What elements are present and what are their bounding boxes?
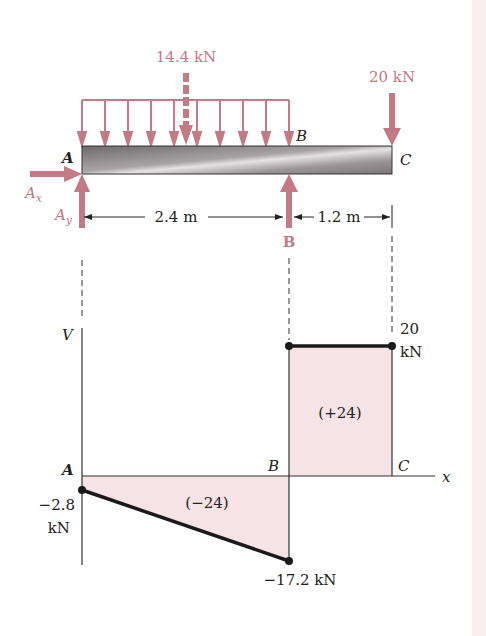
dimension-bc-label: 1.2 m	[318, 208, 361, 226]
x-axis-label: x	[442, 468, 451, 486]
resultant-load-label: 14.4 kN	[156, 48, 216, 66]
resultant-arrow-icon	[179, 73, 193, 145]
figure: 14.4 kN A	[0, 0, 486, 636]
beam-point-c: C	[400, 151, 412, 169]
dimension-ab-label: 2.4 m	[155, 208, 198, 226]
reaction-b-label: B	[283, 233, 296, 251]
shear-point-c: C	[398, 457, 410, 475]
beam	[82, 146, 392, 174]
reaction-ax-label: Ax	[23, 184, 43, 205]
reaction-ax-arrow-icon	[30, 166, 82, 182]
point-load-label: 20 kN	[369, 68, 415, 86]
shear-diagram: V x A B C −2.8 kN −17.2 kN 20 kN	[39, 320, 451, 589]
reaction-ay-label: Ay	[53, 206, 73, 227]
value-b-label: −17.2 kN	[264, 571, 337, 589]
shear-point-b: B	[267, 457, 279, 475]
value-a-unit: kN	[48, 519, 70, 537]
value-c-unit: kN	[400, 343, 422, 361]
shear-area-negative	[82, 476, 289, 561]
reaction-ay-arrow-icon	[74, 174, 90, 228]
diagram-canvas: 14.4 kN A	[0, 0, 486, 636]
area-negative-label: (−24)	[185, 494, 228, 512]
dimension-ab: 2.4 m	[84, 208, 283, 226]
area-positive-label: (+24)	[318, 404, 361, 422]
value-a-label: −2.8	[39, 496, 75, 514]
beam-point-a: A	[60, 149, 74, 167]
projection-lines	[82, 236, 392, 340]
reaction-b-arrow-icon	[280, 174, 298, 228]
page-edge-strip	[472, 0, 486, 636]
beam-point-b: B	[295, 127, 307, 145]
dimension-bc: 1.2 m	[294, 208, 390, 226]
value-c-label: 20	[400, 320, 419, 338]
shear-point-a: A	[60, 461, 74, 479]
v-axis-label: V	[62, 326, 75, 344]
point-load-arrow-icon	[383, 93, 401, 146]
beam-diagram: 14.4 kN A	[23, 48, 415, 251]
